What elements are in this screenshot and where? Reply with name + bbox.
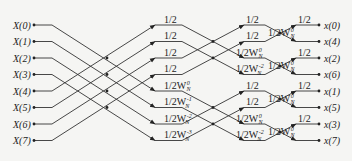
input-label: X(2) [12,53,31,65]
weight-label: 1/2W0N [268,93,296,106]
output-label: x(4) [323,36,341,48]
weight-label: 1/2W-2N [236,63,264,76]
node-dot [318,123,321,126]
weight-label: 1/2 [164,63,177,74]
node-dot [318,73,321,76]
weight-label: 1/2W0N [236,47,264,60]
weight-label: 1/2W0N [164,80,192,93]
node-dot [212,40,215,43]
weight-label: 1/2 [246,30,259,41]
weight-label: 1/2 [164,30,177,41]
node-dot [318,57,321,60]
input-label: X(6) [12,119,31,131]
node-dot [318,106,321,109]
node-dot [33,123,36,126]
node-dot [318,40,321,43]
weight-label: 1/2 [298,47,311,58]
node-dot [106,106,109,109]
weight-label: 1/2 [298,80,311,91]
node-dot [33,73,36,76]
output-label: x(3) [323,119,341,131]
node-dot [106,90,109,93]
node-dot [212,106,215,109]
node-dot [318,90,321,93]
weight-label: 1/2 [164,47,177,58]
output-label: x(0) [323,20,341,32]
weight-label: 1/2 [246,14,259,25]
weight-label: 1/2W-1N [164,96,192,109]
input-label: X(3) [12,69,31,81]
node-dot [33,40,36,43]
output-label: x(1) [323,86,341,98]
node-dot [318,24,321,27]
weight-label: 1/2W0N [268,60,296,73]
weight-label: 1/2 [246,80,259,91]
node-dot [33,24,36,27]
input-label: X(4) [12,86,31,98]
node-dot [212,123,215,126]
weight-label: 1/2 [164,14,177,25]
butterfly-svg: X(0)X(1)X(2)X(3)X(4)X(5)X(6)X(7)1/21/21/… [0,0,352,161]
output-label: x(6) [323,69,341,81]
weight-label: 1/2 [298,14,311,25]
weight-label: 1/2 [246,96,259,107]
node-dot [33,57,36,60]
input-label: X(1) [12,36,31,48]
output-label: x(5) [323,102,341,114]
output-label: x(2) [323,53,341,65]
weight-label: 1/2 [298,113,311,124]
node-dot [106,57,109,60]
weight-label: 1/2W-2N [164,113,192,126]
input-label: X(5) [12,102,31,114]
node-dot [106,73,109,76]
fft-butterfly-diagram: X(0)X(1)X(2)X(3)X(4)X(5)X(6)X(7)1/21/21/… [0,0,352,161]
input-label: X(0) [12,20,31,32]
output-label: x(7) [323,135,341,147]
weight-label: 1/2W0N [268,126,296,139]
node-dot [212,57,215,60]
weight-label: 1/2W0N [268,27,296,40]
weight-label: 1/2W-3N [164,129,192,142]
input-label: X(7) [12,135,31,147]
weight-label: 1/2W0N [236,113,264,126]
node-dot [33,139,36,142]
node-dot [33,106,36,109]
weight-label: 1/2W-2N [236,129,264,142]
node-dot [318,139,321,142]
node-dot [33,90,36,93]
